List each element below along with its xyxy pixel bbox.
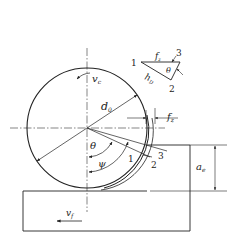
label-point-1: 1 [128, 154, 134, 164]
workpiece [23, 145, 190, 231]
label-ae: ae [196, 161, 206, 173]
inset-point-1: 1 [131, 58, 137, 68]
label-point-2: 2 [151, 160, 157, 170]
label-point-3: 3 [158, 151, 164, 161]
centerlines [10, 48, 165, 212]
label-theta: θ [90, 140, 96, 151]
label-fz: fz [166, 111, 175, 123]
label-vf: vf [66, 208, 75, 220]
inset-theta: θ [166, 66, 171, 75]
inset-point-3: 3 [176, 48, 182, 58]
label-vc: vc [92, 73, 102, 85]
inset-hD: hD [143, 72, 156, 86]
inset-point-2: 2 [169, 84, 175, 94]
radial-lines [87, 128, 167, 157]
rotation-arrow-icon [77, 73, 90, 79]
label-psi: ψ [98, 158, 106, 169]
inset-fz: fz [154, 51, 161, 62]
label-d0: d0 [101, 100, 112, 113]
milling-diagram: vc d0 fz θ ψ 1 2 3 ae vf 1 3 2 fz hD θ [0, 0, 237, 244]
